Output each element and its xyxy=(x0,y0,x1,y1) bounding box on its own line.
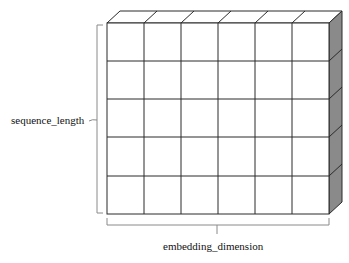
sequence-length-bracket xyxy=(89,25,103,213)
embedding-dimension-bracket xyxy=(107,218,329,234)
sequence-length-label: sequence_length xyxy=(11,114,85,126)
front-face-grid xyxy=(107,23,329,214)
tensor-diagram: sequence_length embedding_dimension xyxy=(0,0,349,263)
embedding-dimension-label: embedding_dimension xyxy=(163,240,264,252)
side-face xyxy=(329,11,342,214)
top-face xyxy=(107,11,342,23)
